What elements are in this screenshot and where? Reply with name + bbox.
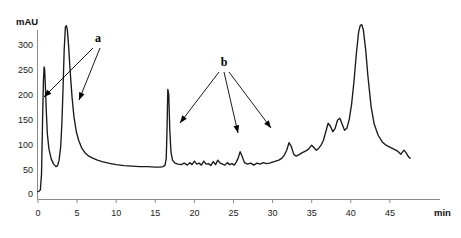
x-tick-label: 5 [75,208,80,218]
annotation-arrow-head [233,125,239,133]
peak-annotations: ab [44,31,271,133]
x-tick-label: 25 [228,208,238,218]
x-tick-label: 10 [111,208,121,218]
y-tick-label: 0 [28,189,33,199]
y-tick-label: 50 [23,165,33,175]
y-tick-label: 200 [18,90,33,100]
annotation-arrow-head [180,115,187,123]
x-tick-label: 15 [150,208,160,218]
y-tick-label: 150 [18,115,33,125]
y-tick-label: 300 [18,40,33,50]
annotation-arrow-head [264,120,271,128]
x-tick-label: 45 [385,208,395,218]
x-tick-labels: 051015202530354045 [35,200,394,219]
x-tick-label: 30 [268,208,278,218]
absorbance-trace [38,25,410,192]
x-tick-label: 0 [35,208,40,218]
chromatogram-figure: 050100150200250300 051015202530354045 mA… [0,0,461,238]
annotation-leader-line [180,72,219,123]
x-axis-title: min [434,207,451,218]
annotation-leader-line [79,48,100,100]
y-tick-label: 100 [18,140,33,150]
axes [38,30,441,200]
x-tick-label: 20 [189,208,199,218]
peak-label-b: b [221,55,228,69]
y-tick-label: 250 [18,65,33,75]
y-tick-labels: 050100150200250300 [18,40,33,199]
x-tick-label: 40 [346,208,356,218]
peak-label-a: a [95,31,101,45]
annotation-arrow-head [79,92,84,100]
y-axis-title: mAU [16,16,38,27]
x-tick-label: 35 [307,208,317,218]
chromatogram-plot: 050100150200250300 051015202530354045 mA… [0,0,461,238]
